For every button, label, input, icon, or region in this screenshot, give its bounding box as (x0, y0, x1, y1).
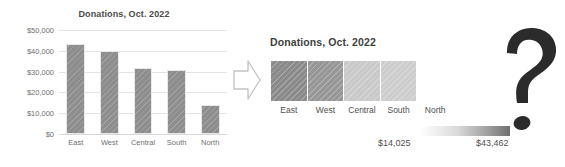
y-axis-tick-label: $30,000 (27, 67, 54, 76)
bar-group[interactable]: North (193, 30, 227, 134)
y-axis-tick-label: $40,000 (27, 46, 54, 55)
heatmap-cell[interactable]: South (381, 61, 418, 101)
bar[interactable] (201, 105, 220, 134)
y-axis-tick-label: $50,000 (27, 26, 54, 35)
bar[interactable] (167, 70, 186, 134)
x-axis-tick-label: Central (126, 138, 160, 147)
gridline (59, 134, 227, 135)
y-axis-tick-label: $0 (46, 130, 54, 139)
bar[interactable] (134, 68, 153, 134)
legend-min-label: $14,025 (378, 138, 411, 148)
y-axis-tick-label: $20,000 (27, 88, 54, 97)
heatmap-panel: Donations, Oct. 2022 EastWestCentralSout… (268, 0, 508, 167)
x-axis-tick-label: West (93, 138, 127, 147)
bar-group[interactable]: South (160, 30, 194, 134)
heatmap-cell[interactable]: North (417, 61, 453, 101)
bar-group[interactable]: Central (126, 30, 160, 134)
bar[interactable] (66, 44, 85, 134)
legend-max-label: $43,462 (476, 138, 509, 148)
heatmap-cell-label: North (413, 105, 457, 115)
x-axis-tick-label: East (59, 138, 93, 147)
bar-chart-plot-area: $50,000$40,000$30,000$20,000$10,000$0 Ea… (59, 30, 227, 134)
y-axis-tick-label: $10,000 (27, 109, 54, 118)
heatmap-grid: EastWestCentralSouthNorth (271, 61, 453, 101)
bar[interactable] (100, 51, 119, 134)
arrow-right-outline-icon (232, 58, 262, 102)
x-axis-tick-label: North (193, 138, 227, 147)
heatmap-title: Donations, Oct. 2022 (270, 36, 376, 48)
heatmap-cell[interactable]: Central (344, 61, 381, 101)
bar-chart-bars: EastWestCentralSouthNorth (59, 30, 227, 134)
heatmap-cell[interactable]: East (271, 61, 308, 101)
bar-chart-title: Donations, Oct. 2022 (34, 9, 214, 19)
heatmap-cell[interactable]: West (308, 61, 345, 101)
bar-chart-panel: Donations, Oct. 2022 $50,000$40,000$30,0… (0, 0, 248, 167)
x-axis-tick-label: South (160, 138, 194, 147)
bar-group[interactable]: East (59, 30, 93, 134)
bar-group[interactable]: West (93, 30, 127, 134)
question-mark-icon (495, 26, 561, 134)
